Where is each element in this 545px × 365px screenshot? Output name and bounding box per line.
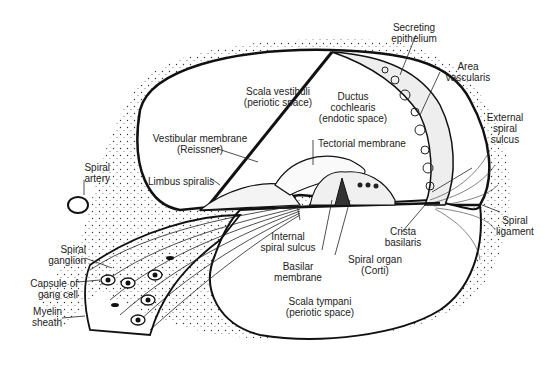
- label-crista-basilaris: Crista basilaris: [378, 226, 428, 248]
- label-scala-vestibuli: Scala vestibuli (periotic space): [238, 86, 318, 108]
- label-external-spiral-sulcus: External spiral sulcus: [475, 112, 535, 145]
- label-vestibular-membrane: Vestibular membrane (Reissner): [150, 133, 250, 155]
- label-basilar-membrane: Basilar membrane: [268, 261, 328, 283]
- label-spiral-ligament: Spiral ligament: [490, 215, 540, 237]
- label-limbus-spiralis: Limbus spiralis: [148, 176, 214, 187]
- label-myelin-sheath: Myelin sheath: [20, 306, 62, 328]
- label-spiral-artery: Spiral artery: [70, 162, 110, 184]
- label-secreting-epithelium: Secreting epithelium: [384, 22, 444, 44]
- label-spiral-ganglion: Spiral ganglion: [30, 244, 86, 266]
- spiral-artery-vessel: [68, 197, 88, 213]
- label-spiral-organ: Spiral organ (Corti): [340, 254, 410, 276]
- label-capsule-gang-cell: Capsule of gang cell: [20, 278, 78, 300]
- label-internal-spiral-sulcus: Internal spiral sulcus: [253, 231, 323, 253]
- label-scala-tympani: Scala tympani (periotic space): [280, 296, 360, 318]
- label-ductus-cochlearis: Ductus cochlearis (endotic space): [313, 91, 393, 124]
- label-area-vascularis: Area vascularis: [438, 61, 498, 83]
- label-tectorial-membrane: Tectorial membrane: [318, 138, 406, 149]
